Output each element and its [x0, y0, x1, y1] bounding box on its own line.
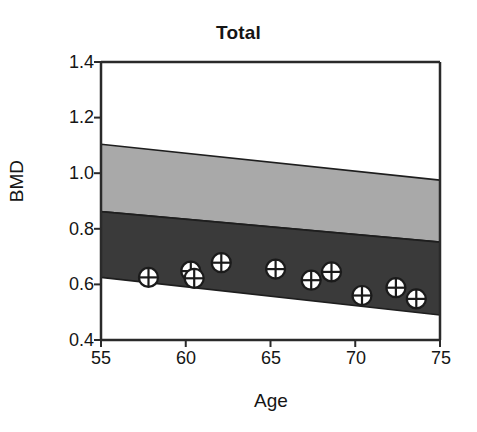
data-point — [266, 260, 285, 279]
plot-area — [0, 0, 477, 432]
chart-figure: Total BMD Age 1.4 1.2 1.0 0.8 0.6 0.4 55… — [0, 0, 477, 432]
data-point — [322, 262, 341, 281]
data-point — [386, 278, 405, 297]
data-point — [353, 286, 372, 305]
data-point — [407, 289, 426, 308]
data-point — [185, 269, 204, 288]
data-point — [302, 271, 321, 290]
data-point — [139, 268, 158, 287]
data-point — [212, 253, 231, 272]
